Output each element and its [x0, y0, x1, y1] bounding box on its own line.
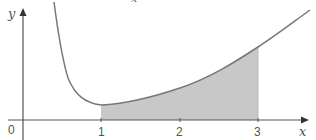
x-tick-label-2: 2	[176, 125, 183, 139]
cropped-top-label: x	[131, 0, 138, 5]
x-tick-label-3: 3	[254, 125, 261, 139]
shaded-area	[101, 47, 258, 120]
x-axis-label: x	[299, 124, 307, 139]
y-axis-arrow-icon	[20, 8, 27, 16]
y-axis-label: y	[7, 6, 16, 21]
origin-label: 0	[8, 123, 15, 137]
x-axis-arrow-icon	[301, 117, 309, 124]
x-tick-label-1: 1	[98, 125, 105, 139]
area-under-curve-figure: 0 1 2 3 x y x	[0, 0, 316, 140]
